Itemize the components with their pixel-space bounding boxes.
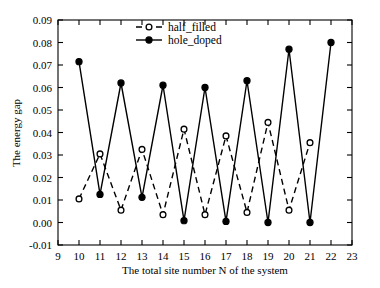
data-point-half-filled bbox=[76, 196, 82, 202]
x-tick-label: 13 bbox=[137, 250, 149, 262]
x-tick-label: 9 bbox=[55, 250, 61, 262]
y-tick-label: 0.09 bbox=[33, 14, 53, 26]
x-tick-label: 18 bbox=[242, 250, 254, 262]
data-point-hole-doped bbox=[328, 39, 334, 45]
energy-gap-chart: 91011121314151617181920212223 -0.010.000… bbox=[0, 0, 380, 288]
data-point-half-filled bbox=[202, 212, 208, 218]
y-tick-label: 0.01 bbox=[33, 194, 52, 206]
data-point-hole-doped bbox=[160, 82, 166, 88]
data-point-half-filled bbox=[223, 133, 229, 139]
data-point-hole-doped bbox=[223, 218, 229, 224]
x-tick-label: 16 bbox=[200, 250, 212, 262]
x-tick-label: 10 bbox=[74, 250, 86, 262]
data-point-half-filled bbox=[160, 212, 166, 218]
y-axis-ticks: -0.010.000.010.020.030.040.050.060.070.0… bbox=[29, 14, 352, 251]
x-axis-label: The total site number N of the system bbox=[122, 264, 288, 276]
data-point-hole-doped bbox=[307, 219, 313, 225]
chart-legend: half_filledhole_doped bbox=[136, 21, 222, 47]
series-line-half-filled bbox=[79, 122, 310, 214]
x-tick-label: 20 bbox=[284, 250, 296, 262]
y-tick-label: 0.07 bbox=[33, 59, 53, 71]
y-tick-label: 0.00 bbox=[33, 217, 53, 229]
legend-label-half-filled: half_filled bbox=[168, 21, 216, 33]
data-point-hole-doped bbox=[181, 218, 187, 224]
x-tick-label: 14 bbox=[158, 250, 170, 262]
x-tick-label: 23 bbox=[347, 250, 359, 262]
x-tick-label: 11 bbox=[95, 250, 106, 262]
data-point-hole-doped bbox=[202, 84, 208, 90]
data-point-hole-doped bbox=[286, 46, 292, 52]
y-tick-label: 0.02 bbox=[33, 172, 52, 184]
data-point-half-filled bbox=[307, 140, 313, 146]
data-point-half-filled bbox=[118, 207, 124, 213]
x-tick-label: 12 bbox=[116, 250, 127, 262]
y-axis-label: The energy gap bbox=[10, 98, 22, 167]
data-point-half-filled bbox=[181, 126, 187, 132]
data-point-hole-doped bbox=[118, 80, 124, 86]
x-tick-label: 19 bbox=[263, 250, 275, 262]
chart-canvas: 91011121314151617181920212223 -0.010.000… bbox=[0, 0, 380, 288]
y-tick-label: 0.05 bbox=[33, 104, 53, 116]
data-point-hole-doped bbox=[244, 78, 250, 84]
legend-marker-half-filled bbox=[146, 24, 152, 30]
data-point-half-filled bbox=[244, 209, 250, 215]
legend-label-hole-doped: hole_doped bbox=[168, 34, 222, 47]
series-line-hole-doped bbox=[79, 43, 331, 223]
data-point-hole-doped bbox=[97, 191, 103, 197]
data-point-half-filled bbox=[139, 146, 145, 152]
data-point-hole-doped bbox=[76, 59, 82, 65]
data-point-half-filled bbox=[97, 151, 103, 157]
legend-marker-hole-doped bbox=[146, 37, 152, 43]
x-tick-label: 15 bbox=[179, 250, 191, 262]
y-tick-label: 0.06 bbox=[33, 82, 53, 94]
data-series-group bbox=[76, 39, 334, 225]
data-point-half-filled bbox=[286, 207, 292, 213]
data-point-hole-doped bbox=[139, 194, 145, 200]
data-point-half-filled bbox=[265, 119, 271, 125]
x-tick-label: 22 bbox=[326, 250, 337, 262]
y-tick-label: -0.01 bbox=[29, 239, 52, 251]
data-point-hole-doped bbox=[265, 219, 271, 225]
y-tick-label: 0.08 bbox=[33, 37, 53, 49]
x-tick-label: 17 bbox=[221, 250, 233, 262]
y-tick-label: 0.04 bbox=[33, 127, 53, 139]
y-tick-label: 0.03 bbox=[33, 149, 53, 161]
x-tick-label: 21 bbox=[305, 250, 316, 262]
